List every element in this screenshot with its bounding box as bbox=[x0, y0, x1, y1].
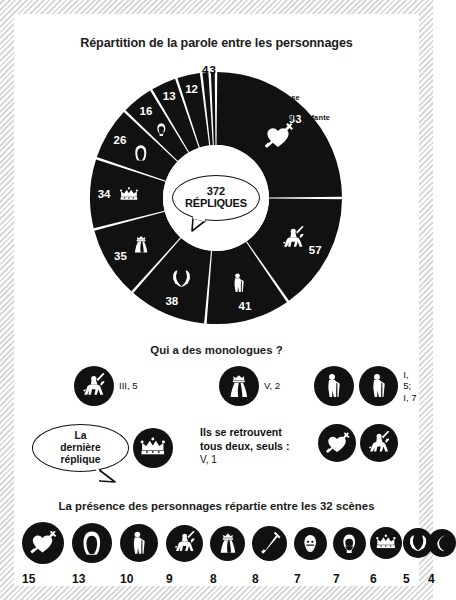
old-man-disc bbox=[314, 366, 354, 406]
knight-horse-icon bbox=[79, 371, 109, 401]
knight-horse-icon bbox=[279, 224, 308, 253]
donut-chart-section: 372 RÉPLIQUES 9357413835342616131243 Don… bbox=[14, 66, 419, 331]
heart-pierced-icon bbox=[27, 527, 58, 558]
presence-count: 7 bbox=[294, 572, 327, 586]
presence-count: 7 bbox=[333, 572, 366, 586]
donut-slice-value: 35 bbox=[114, 250, 127, 262]
presence-item: 6 bbox=[370, 527, 402, 586]
monologue-item: I, 5; I, 7 bbox=[359, 366, 419, 406]
last-line-bubble: Ladernièreréplique bbox=[32, 424, 129, 472]
crown-disc bbox=[133, 428, 173, 468]
page-boy-icon bbox=[298, 531, 322, 555]
donut-slice-value: 41 bbox=[239, 300, 252, 312]
old-man-icon bbox=[364, 371, 394, 401]
crown-icon bbox=[118, 184, 140, 206]
presence-heading: La présence des personnages répartie ent… bbox=[14, 500, 419, 512]
monologue-item: III, 5 bbox=[74, 366, 138, 406]
presence-item: 10 bbox=[120, 524, 158, 586]
queen-crown-gown-disc bbox=[210, 526, 245, 561]
last-line-bubble-tail bbox=[95, 467, 117, 484]
together-block: Ils se retrouventtous deux, seuls : V, 1 bbox=[200, 426, 415, 465]
last-line-block: Ladernièreréplique bbox=[32, 422, 207, 480]
presence-count: 15 bbox=[22, 572, 64, 586]
presence-item: 15 bbox=[22, 522, 64, 586]
monologue-reference: V, 2 bbox=[264, 380, 280, 391]
old-man-disc bbox=[120, 524, 158, 562]
presence-count: 10 bbox=[120, 572, 158, 586]
donut-slice-value: 12 bbox=[185, 83, 198, 95]
presence-count: 8 bbox=[252, 572, 287, 586]
callout-leader-line bbox=[240, 98, 254, 99]
monologues-row: III, 5V, 2I, 5; I, 7 bbox=[14, 364, 419, 410]
presence-count: 4 bbox=[428, 572, 456, 586]
presence-item: 8 bbox=[210, 526, 245, 587]
donut-chart: 372 RÉPLIQUES bbox=[88, 70, 344, 326]
donut-slice-value: 4 bbox=[202, 64, 208, 76]
crown-icon bbox=[374, 531, 398, 555]
presence-item: 13 bbox=[72, 523, 112, 586]
callout-label-page-infante: Le Page de l'Infante bbox=[257, 113, 330, 122]
knight-horse-disc bbox=[166, 525, 203, 562]
donut-slice-value: 34 bbox=[98, 188, 111, 200]
callout-page-infante: Le Page de l'Infante bbox=[240, 113, 330, 122]
crown-disc bbox=[370, 527, 402, 559]
monk-hood-icon bbox=[337, 531, 361, 555]
presence-count: 8 bbox=[210, 572, 245, 586]
nun-hood-icon bbox=[131, 143, 151, 163]
monk-hood-disc bbox=[333, 527, 366, 560]
knight-horse-disc bbox=[360, 424, 398, 462]
knight-horse-icon bbox=[365, 429, 393, 457]
donut-slice-value: 26 bbox=[114, 134, 127, 146]
poster-page: Répartition de la parole entre les perso… bbox=[14, 14, 419, 586]
knight-horse-disc bbox=[74, 366, 114, 406]
presence-item: 9 bbox=[166, 525, 203, 587]
callout-leader-line bbox=[240, 118, 254, 119]
presence-count: 9 bbox=[166, 572, 203, 586]
knight-horse-icon bbox=[171, 529, 198, 556]
presence-item: 8 bbox=[252, 526, 287, 587]
heart-pierced-disc bbox=[318, 424, 356, 462]
presence-count: 13 bbox=[72, 572, 112, 586]
donut-slice-value: 57 bbox=[309, 244, 322, 256]
queen-crown-gown-icon bbox=[130, 233, 152, 255]
donut-slice-value: 13 bbox=[163, 90, 176, 102]
monologue-item: V, 2 bbox=[219, 366, 280, 406]
together-icons bbox=[318, 424, 398, 462]
old-man-icon bbox=[125, 529, 153, 557]
queen-crown-gown-disc bbox=[219, 366, 259, 406]
donut-slice-value: 3 bbox=[210, 64, 216, 76]
moon-sliver-disc bbox=[428, 529, 456, 557]
presence-row: 15131098877654 bbox=[14, 516, 419, 560]
donut-slice-value: 38 bbox=[165, 295, 178, 307]
presence-item: 7 bbox=[333, 527, 366, 587]
crown-icon bbox=[138, 433, 168, 463]
page-title: Répartition de la parole entre les perso… bbox=[14, 36, 419, 50]
heart-pierced-icon bbox=[323, 429, 351, 457]
laurel-wreath-icon bbox=[407, 532, 429, 554]
sword-icon bbox=[257, 530, 283, 556]
callout-don-alonse: Don Alonse bbox=[240, 93, 300, 102]
page-boy-disc bbox=[294, 527, 327, 560]
last-line-text: Ladernièreréplique bbox=[60, 430, 101, 466]
queen-crown-gown-icon bbox=[224, 371, 254, 401]
queen-crown-gown-icon bbox=[215, 530, 241, 556]
nun-hood-icon bbox=[77, 528, 107, 558]
monologue-reference: I, 5; I, 7 bbox=[403, 369, 419, 403]
monologues-heading: Qui a des monologues ? bbox=[14, 344, 419, 356]
monologue-item bbox=[314, 366, 354, 406]
old-man-disc bbox=[359, 366, 398, 406]
nun-hood-disc bbox=[72, 523, 112, 563]
sword-disc bbox=[252, 526, 287, 561]
callout-label-don-alonse: Don Alonse bbox=[257, 93, 300, 102]
old-man-icon bbox=[319, 371, 349, 401]
heart-pierced-disc bbox=[22, 522, 64, 564]
laurel-wreath-icon bbox=[170, 267, 193, 290]
donut-slice-value: 16 bbox=[140, 105, 153, 117]
monologue-reference: III, 5 bbox=[119, 380, 138, 391]
moon-sliver-icon bbox=[432, 533, 453, 554]
donut-svg bbox=[88, 70, 344, 326]
old-man-icon bbox=[227, 271, 251, 295]
monk-hood-icon bbox=[153, 121, 170, 138]
presence-item: 7 bbox=[294, 527, 327, 587]
presence-count: 6 bbox=[370, 572, 402, 586]
